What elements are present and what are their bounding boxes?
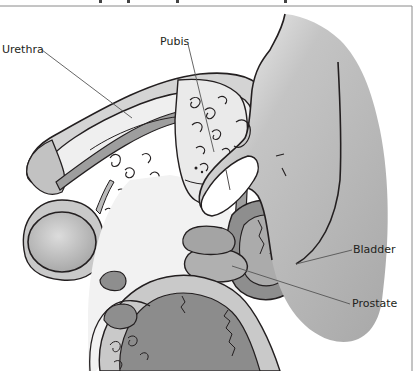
label-prostate: Prostate <box>352 298 397 309</box>
label-pubis: Pubis <box>160 36 189 47</box>
diagram-frame: Urethra Pubis Bladder Prostate <box>0 0 416 371</box>
label-bladder: Bladder <box>353 244 396 255</box>
label-urethra: Urethra <box>2 44 44 55</box>
urethra-leader-line <box>42 50 132 118</box>
anatomy-illustration <box>0 0 416 371</box>
